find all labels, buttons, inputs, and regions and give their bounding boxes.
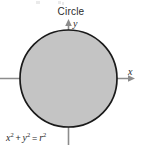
equation-equals: = bbox=[30, 133, 39, 143]
circle-equation: x2 + y2 = r2 bbox=[6, 132, 46, 144]
y-axis-arrowhead bbox=[65, 19, 72, 26]
x-axis-label: x bbox=[128, 67, 132, 77]
y-axis-label: y bbox=[73, 19, 77, 29]
circle-plot bbox=[0, 0, 142, 151]
circle-figure: Circle y x x2 + y2 = r2 bbox=[0, 0, 142, 151]
equation-exp-r: 2 bbox=[43, 131, 46, 138]
circle-shape bbox=[20, 30, 117, 127]
equation-plus: + bbox=[14, 133, 23, 143]
